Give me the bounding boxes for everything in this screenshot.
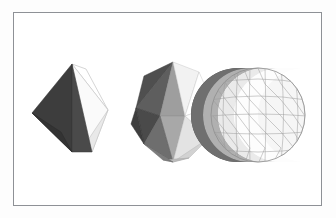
polyhedra-illustration bbox=[13, 12, 322, 206]
shape-geodesic-sphere bbox=[191, 66, 307, 164]
shapes-canvas bbox=[13, 12, 322, 206]
figure-root bbox=[0, 0, 336, 218]
octa-face-left-upper bbox=[32, 64, 72, 152]
shape-octahedron bbox=[32, 64, 108, 152]
